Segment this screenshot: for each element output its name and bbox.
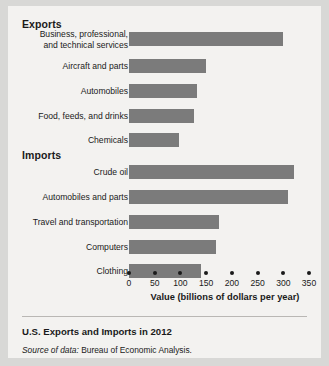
x-axis-tick <box>307 271 311 275</box>
bar-exports-0 <box>129 32 283 46</box>
bar-exports-4 <box>129 133 179 147</box>
bar-label: Business, professional, and technical se… <box>13 29 128 50</box>
x-axis: 050100150200250300350 <box>129 271 309 311</box>
source-text: Bureau of Economic Analysis. <box>81 345 192 355</box>
x-axis-tick-label: 200 <box>225 278 239 288</box>
bar-label: Automobiles and parts <box>13 192 128 203</box>
bar-label: Food, feeds, and drinks <box>13 111 128 122</box>
x-axis-tick <box>204 271 208 275</box>
divider <box>22 316 307 317</box>
x-axis-tick <box>127 271 131 275</box>
bar-imports-3 <box>129 240 216 254</box>
x-axis-tick-label: 50 <box>150 278 160 288</box>
bar-label: Computers <box>13 242 128 253</box>
bar-row: Travel and transportation <box>8 211 321 233</box>
bar-label: Clothing <box>13 266 128 277</box>
bar-label: Crude oil <box>13 167 128 178</box>
x-axis-tick-label: 100 <box>173 278 187 288</box>
bar-exports-3 <box>129 109 194 123</box>
bar-row: Food, feeds, and drinks <box>8 105 321 127</box>
bar-imports-0 <box>129 165 294 179</box>
bar-imports-2 <box>129 215 219 229</box>
x-axis-title: Value (billions of dollars per year) <box>129 292 321 302</box>
bar-label: Chemicals <box>13 135 128 146</box>
bar-chart-plot: Business, professional, and technical se… <box>8 6 321 296</box>
bar-exports-2 <box>129 84 197 98</box>
x-axis-tick-label: 250 <box>250 278 264 288</box>
x-axis-tick <box>178 271 182 275</box>
bar-row: Computers <box>8 236 321 258</box>
x-axis-tick <box>153 271 157 275</box>
bar-imports-1 <box>129 190 288 204</box>
x-axis-tick-label: 300 <box>276 278 290 288</box>
figure-source: Source of data: Bureau of Economic Analy… <box>22 345 192 355</box>
bar-exports-1 <box>129 59 206 73</box>
bar-row: Crude oil <box>8 161 321 183</box>
bar-row: Automobiles and parts <box>8 186 321 208</box>
x-axis-tick <box>281 271 285 275</box>
bar-row: Aircraft and parts <box>8 55 321 77</box>
figure-caption: U.S. Exports and Imports in 2012 <box>22 326 172 337</box>
bar-label: Travel and transportation <box>13 217 128 228</box>
bar-label: Automobiles <box>13 86 128 97</box>
bar-row: Business, professional, and technical se… <box>8 28 321 50</box>
x-axis-tick <box>230 271 234 275</box>
x-axis-tick-label: 350 <box>302 278 316 288</box>
x-axis-tick <box>256 271 260 275</box>
bar-row: Automobiles <box>8 80 321 102</box>
x-axis-tick-label: 0 <box>127 278 132 288</box>
figure-page: Exports Imports Business, professional, … <box>0 0 329 366</box>
x-axis-tick-label: 150 <box>199 278 213 288</box>
source-prefix: Source of data: <box>22 345 79 355</box>
bar-label: Aircraft and parts <box>13 61 128 72</box>
figure-card: Exports Imports Business, professional, … <box>8 6 321 358</box>
bar-row: Chemicals <box>8 129 321 151</box>
